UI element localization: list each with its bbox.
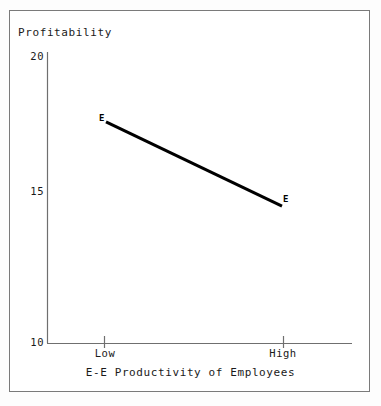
chart-svg xyxy=(0,0,381,406)
plot-area: Profitability 20 15 10 Low High E E E-E … xyxy=(0,0,381,406)
series-line-E xyxy=(106,122,282,206)
x-axis-title: E-E Productivity of Employees xyxy=(0,366,381,379)
chart-page: Profitability 20 15 10 Low High E E E-E … xyxy=(0,0,381,406)
